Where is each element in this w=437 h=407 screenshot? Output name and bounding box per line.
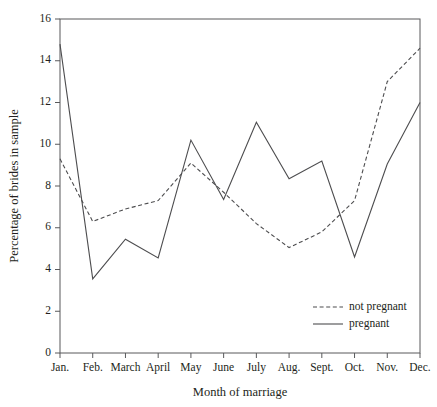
y-tick-label: 12 xyxy=(40,95,52,107)
series-line-pregnant xyxy=(60,44,420,279)
y-tick-label: 8 xyxy=(45,179,51,191)
y-tick-label: 4 xyxy=(45,262,51,274)
line-chart: 0246810121416 Jan.Feb.MarchAprilMayJuneJ… xyxy=(0,0,437,407)
y-axis-ticks xyxy=(55,19,60,353)
y-tick-label: 14 xyxy=(40,53,52,65)
x-tick-label: Aug. xyxy=(278,361,301,374)
x-tick-label: May xyxy=(180,361,201,374)
x-axis-tick-labels: Jan.Feb.MarchAprilMayJuneJulyAug.Sept.Oc… xyxy=(51,361,431,374)
x-tick-label: Nov. xyxy=(376,361,398,373)
x-tick-label: Feb. xyxy=(83,361,103,373)
chart-container: 0246810121416 Jan.Feb.MarchAprilMayJuneJ… xyxy=(0,0,437,407)
y-axis-tick-labels: 0246810121416 xyxy=(40,12,52,358)
y-tick-label: 10 xyxy=(40,137,52,149)
chart-legend: not pregnant pregnant xyxy=(313,300,408,330)
x-tick-label: Jan. xyxy=(51,361,69,373)
x-tick-label: June xyxy=(213,361,234,373)
y-tick-label: 16 xyxy=(40,12,52,24)
legend-label-not-pregnant: not pregnant xyxy=(349,300,408,313)
legend-label-pregnant: pregnant xyxy=(349,317,390,330)
x-tick-label: April xyxy=(146,361,170,374)
x-tick-label: July xyxy=(247,361,266,374)
series-group xyxy=(60,44,420,279)
x-tick-label: Sept. xyxy=(310,361,333,374)
x-tick-label: March xyxy=(110,361,140,373)
y-tick-label: 0 xyxy=(45,346,51,358)
x-axis-title: Month of marriage xyxy=(193,385,288,399)
y-tick-label: 6 xyxy=(45,220,51,232)
x-axis-ticks xyxy=(60,353,420,358)
x-tick-label: Dec. xyxy=(409,361,431,373)
y-tick-label: 2 xyxy=(45,304,51,316)
series-line-not-pregnant xyxy=(60,48,420,247)
x-tick-label: Oct. xyxy=(345,361,365,373)
y-axis-title: Percentage of brides in sample xyxy=(7,109,21,263)
